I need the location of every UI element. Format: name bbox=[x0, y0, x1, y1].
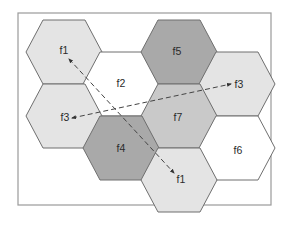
cell-label: f4 bbox=[117, 142, 126, 154]
cell-label: f3 bbox=[61, 111, 70, 123]
cell-label: f1 bbox=[177, 173, 186, 185]
cell-label: f6 bbox=[234, 144, 243, 156]
cell-label: f7 bbox=[174, 111, 183, 123]
hex-cell-diagram: f1f2f5f3f3f7f4f6f1 bbox=[0, 0, 298, 232]
cell-label: f2 bbox=[117, 77, 126, 89]
cell-label: f1 bbox=[60, 44, 69, 56]
cell-label: f5 bbox=[173, 45, 182, 57]
cell-label: f3 bbox=[235, 78, 244, 90]
